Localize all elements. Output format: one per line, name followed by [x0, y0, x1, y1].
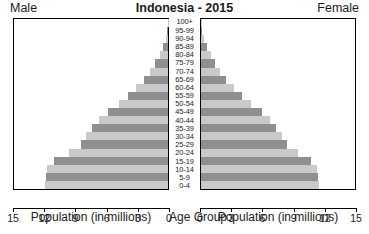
bar-row — [14, 132, 168, 140]
age-group-label: 0-4 — [169, 182, 200, 190]
bar-female-60-64 — [201, 84, 234, 92]
female-side-label: Female — [317, 1, 359, 15]
bar-female-50-54 — [201, 100, 251, 108]
male-axis-title: Population (in millions) — [13, 210, 169, 224]
female-bar-rows — [201, 19, 355, 189]
bar-row — [201, 157, 355, 165]
bar-male-70-74 — [150, 68, 168, 76]
bar-row — [14, 124, 168, 132]
bar-female-70-74 — [201, 68, 220, 76]
bar-female-45-49 — [201, 108, 262, 116]
chart-header: Male Indonesia - 2015 Female — [0, 0, 369, 17]
bar-row — [201, 51, 355, 59]
bar-male-65-69 — [144, 76, 168, 84]
chart-footer: Population (in millions) Age Group Popul… — [0, 210, 369, 230]
bar-row — [14, 35, 168, 43]
age-group-axis: 100+95-9990-9485-8980-8475-7970-7465-696… — [169, 18, 200, 190]
bar-row — [201, 35, 355, 43]
bar-male-25-29 — [81, 140, 168, 148]
bar-row — [201, 68, 355, 76]
bar-male-90-94 — [166, 35, 168, 43]
bar-row — [201, 92, 355, 100]
bar-row — [201, 19, 355, 27]
age-group-label: 20-24 — [169, 149, 200, 157]
bar-row — [14, 100, 168, 108]
bar-row — [14, 149, 168, 157]
bar-row — [14, 19, 168, 27]
female-panel — [200, 18, 356, 190]
bar-male-0-4 — [45, 181, 168, 189]
bar-row — [201, 173, 355, 181]
bar-female-75-79 — [201, 59, 215, 67]
bar-male-40-44 — [99, 116, 168, 124]
bar-male-75-79 — [155, 59, 168, 67]
chart-title: Indonesia - 2015 — [0, 1, 369, 15]
bar-female-30-34 — [201, 132, 282, 140]
bar-row — [14, 43, 168, 51]
bar-row — [201, 116, 355, 124]
bar-row — [201, 43, 355, 51]
bar-female-40-44 — [201, 116, 270, 124]
bar-female-10-14 — [201, 165, 317, 173]
bar-male-45-49 — [108, 108, 168, 116]
bar-female-15-19 — [201, 157, 311, 165]
bar-row — [14, 76, 168, 84]
bar-row — [14, 84, 168, 92]
bar-male-10-14 — [47, 165, 168, 173]
female-axis-line — [200, 208, 356, 209]
bar-row — [201, 132, 355, 140]
population-pyramid-chart: Male Indonesia - 2015 Female 100+95-9990… — [0, 0, 369, 234]
bar-row — [201, 140, 355, 148]
female-axis-title: Population (in millions) — [200, 210, 356, 224]
bar-row — [201, 149, 355, 157]
bar-row — [201, 165, 355, 173]
bar-female-20-24 — [201, 149, 298, 157]
bar-female-85-89 — [201, 43, 207, 51]
bar-row — [201, 108, 355, 116]
bar-male-5-9 — [46, 173, 168, 181]
bar-female-80-84 — [201, 51, 211, 59]
bar-female-5-9 — [201, 173, 318, 181]
age-group-label: 100+ — [169, 18, 200, 26]
bar-row — [14, 51, 168, 59]
plot-area: 100+95-9990-9485-8980-8475-7970-7465-696… — [0, 18, 369, 196]
bar-row — [14, 92, 168, 100]
bar-male-30-34 — [86, 132, 168, 140]
bar-male-15-19 — [54, 157, 168, 165]
male-bar-rows — [14, 19, 168, 189]
bar-row — [14, 157, 168, 165]
bar-row — [14, 173, 168, 181]
bar-female-95-99 — [201, 27, 202, 35]
bar-row — [201, 100, 355, 108]
male-panel — [13, 18, 169, 190]
bar-row — [201, 124, 355, 132]
bar-row — [201, 59, 355, 67]
bar-female-65-69 — [201, 76, 226, 84]
bar-row — [14, 116, 168, 124]
bar-row — [14, 165, 168, 173]
bar-row — [14, 181, 168, 189]
bar-female-55-59 — [201, 92, 242, 100]
bar-row — [14, 59, 168, 67]
bar-row — [201, 181, 355, 189]
bar-male-55-59 — [128, 92, 168, 100]
bar-female-25-29 — [201, 140, 287, 148]
bar-male-35-39 — [92, 124, 168, 132]
bar-male-50-54 — [119, 100, 168, 108]
bar-row — [14, 140, 168, 148]
bar-male-60-64 — [136, 84, 168, 92]
bar-female-35-39 — [201, 124, 276, 132]
age-group-label: 75-79 — [169, 59, 200, 67]
bar-female-90-94 — [201, 35, 204, 43]
bar-row — [14, 68, 168, 76]
bar-male-80-84 — [160, 51, 168, 59]
bar-male-20-24 — [69, 149, 168, 157]
bar-female-0-4 — [201, 181, 319, 189]
bar-male-85-89 — [163, 43, 168, 51]
bar-row — [201, 76, 355, 84]
bar-row — [201, 84, 355, 92]
age-group-axis-title: Age Group — [169, 210, 200, 224]
bar-row — [14, 27, 168, 35]
male-axis-line — [13, 208, 169, 209]
bar-row — [201, 27, 355, 35]
